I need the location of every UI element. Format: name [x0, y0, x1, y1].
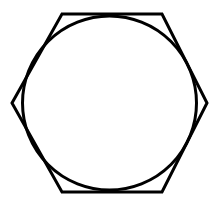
figure-background [0, 0, 218, 205]
figure-canvas: Hexagon with inscribed circle [0, 0, 218, 205]
geometric-figure-svg: Hexagon with inscribed circle [0, 0, 218, 205]
